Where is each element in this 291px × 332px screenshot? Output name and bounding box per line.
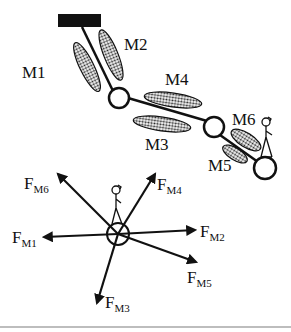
label-m2: M2 <box>124 35 148 54</box>
center-pen-figure-icon <box>112 185 122 224</box>
label-m3: M3 <box>145 135 169 154</box>
label-fm1: FM1 <box>12 228 37 249</box>
label-m6: M6 <box>232 110 256 129</box>
label-fm6: FM6 <box>24 174 49 195</box>
muscle-m4 <box>143 89 202 111</box>
force-vector-fm4 <box>118 174 155 234</box>
muscle-m1 <box>69 40 105 95</box>
muscle-m3 <box>132 113 191 135</box>
label-m5: M5 <box>208 156 232 175</box>
shoulder-joint <box>109 88 129 108</box>
label-fm3: FM3 <box>105 293 130 314</box>
label-fm4: FM4 <box>157 175 182 196</box>
arm-force-diagram: M1 M2 M4 M3 M6 M5 FM6 FM4 FM1 FM2 FM5 FM… <box>0 0 291 332</box>
force-vector-fm6 <box>58 174 118 234</box>
force-diagram: FM6 FM4 FM1 FM2 FM5 FM3 <box>12 174 225 314</box>
arm-linkage: M1 M2 M4 M3 M6 M5 <box>22 14 276 179</box>
endpoint-joint <box>254 157 276 179</box>
base-block <box>58 14 101 27</box>
force-vector-fm5 <box>118 234 196 262</box>
label-m4: M4 <box>165 70 189 89</box>
bottom-divider <box>0 326 291 328</box>
label-m1: M1 <box>22 63 46 82</box>
elbow-joint <box>204 117 224 137</box>
pen-figure-icon <box>261 117 272 157</box>
muscle-m2 <box>94 27 127 82</box>
label-fm5: FM5 <box>187 268 212 289</box>
label-fm2: FM2 <box>200 222 225 243</box>
